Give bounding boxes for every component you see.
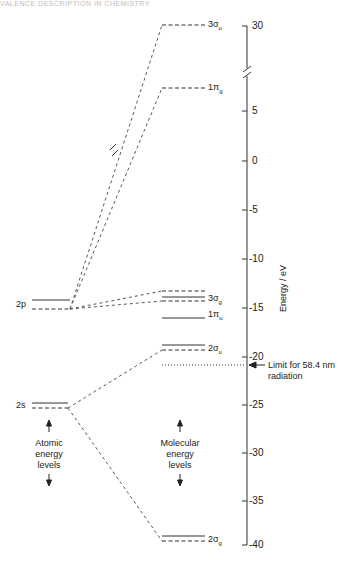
tick-label: 30 [252,21,263,31]
mo-label-2sigma-u: 2σu [208,344,222,355]
atomic-label-2s: 2s [16,401,26,410]
mo-label-3sigma-g: 3σg [208,294,222,305]
mo-label-1pi-u: 1πu [208,310,223,321]
energy-diagram-lines [0,0,362,565]
atomic-levels [32,300,70,408]
atomic-caption: Atomic energy levels [24,438,74,471]
energy-axis [242,26,251,545]
tick-label: 0 [252,156,258,166]
axis-title: Energy / eV [278,265,288,312]
limit-arrow [249,362,265,368]
correlation-lines [68,25,162,541]
limit-label: Limit for 58.4 nm radiation [268,360,335,382]
tick-label: -10 [249,254,263,264]
tick-label: -35 [249,496,263,506]
tick-label: -30 [249,448,263,458]
mo-label-1pi-g: 1πg [208,83,223,94]
tick-label: -20 [249,352,263,362]
atomic-label-2p: 2p [16,300,26,309]
tick-label: -25 [249,400,263,410]
mo-label-2sigma-g: 2σg [208,535,222,546]
tick-label: -5 [249,205,258,215]
tick-label: 5 [252,106,258,116]
mo-label-3sigma-u: 3σu [208,20,222,31]
tick-label: -15 [249,303,263,313]
molecular-caption: Molecular energy levels [150,438,210,471]
tick-label: -40 [249,540,263,550]
